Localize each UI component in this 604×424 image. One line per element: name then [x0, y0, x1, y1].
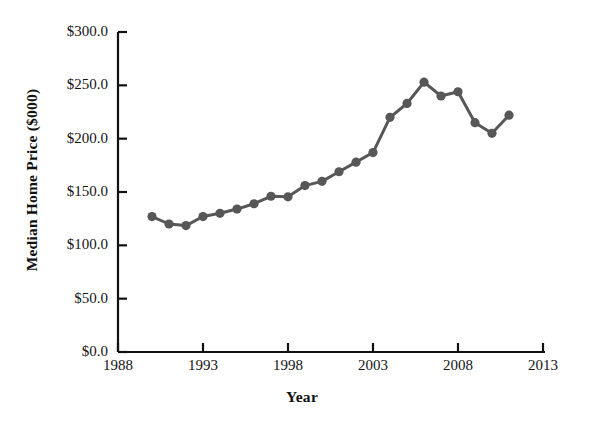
- data-point-marker: [317, 177, 326, 186]
- data-point-marker: [351, 158, 360, 167]
- data-point-marker: [470, 118, 479, 127]
- median-home-price-chart: Median Home Price ($000) $0.0$50.0$100.0…: [0, 0, 604, 424]
- axes: [118, 32, 545, 352]
- data-point-marker: [504, 111, 513, 120]
- data-point-marker: [232, 204, 241, 213]
- data-point-marker: [436, 91, 445, 100]
- data-point-marker: [402, 99, 411, 108]
- data-point-marker: [487, 129, 496, 138]
- plot-area: [0, 0, 604, 424]
- data-point-marker: [164, 219, 173, 228]
- data-point-marker: [334, 167, 343, 176]
- data-point-marker: [453, 87, 462, 96]
- data-point-marker: [215, 209, 224, 218]
- data-series-line: [152, 82, 509, 225]
- data-point-marker: [147, 212, 156, 221]
- data-point-marker: [249, 199, 258, 208]
- series-line: [152, 82, 509, 225]
- data-point-marker: [385, 113, 394, 122]
- data-series-markers: [147, 78, 513, 231]
- data-point-marker: [283, 192, 292, 201]
- data-point-marker: [181, 221, 190, 230]
- data-point-marker: [368, 148, 377, 157]
- data-point-marker: [419, 78, 428, 87]
- x-axis-title: Year: [0, 388, 604, 406]
- data-point-marker: [198, 212, 207, 221]
- data-point-marker: [300, 181, 309, 190]
- data-point-marker: [266, 192, 275, 201]
